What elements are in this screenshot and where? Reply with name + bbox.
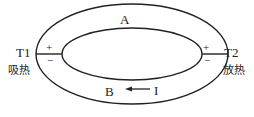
label-A: A xyxy=(120,12,130,27)
right-minus-sign: − xyxy=(204,54,210,66)
left-minus-sign: − xyxy=(47,54,53,66)
inner-loop xyxy=(62,28,202,80)
diagram-svg: A B I T1 吸热 + − T2 放热 + − xyxy=(0,0,254,117)
left-plus-sign: + xyxy=(46,41,52,53)
label-T2: T2 xyxy=(224,45,238,60)
label-B: B xyxy=(105,84,114,99)
current-arrow-head-icon xyxy=(125,87,132,92)
label-heat-release: 放热 xyxy=(223,63,245,76)
label-current: I xyxy=(154,83,158,98)
thermocouple-diagram: A B I T1 吸热 + − T2 放热 + − xyxy=(0,0,254,117)
label-heat-absorb: 吸热 xyxy=(8,64,30,76)
right-plus-sign: + xyxy=(203,41,209,53)
label-T1: T1 xyxy=(16,45,30,60)
